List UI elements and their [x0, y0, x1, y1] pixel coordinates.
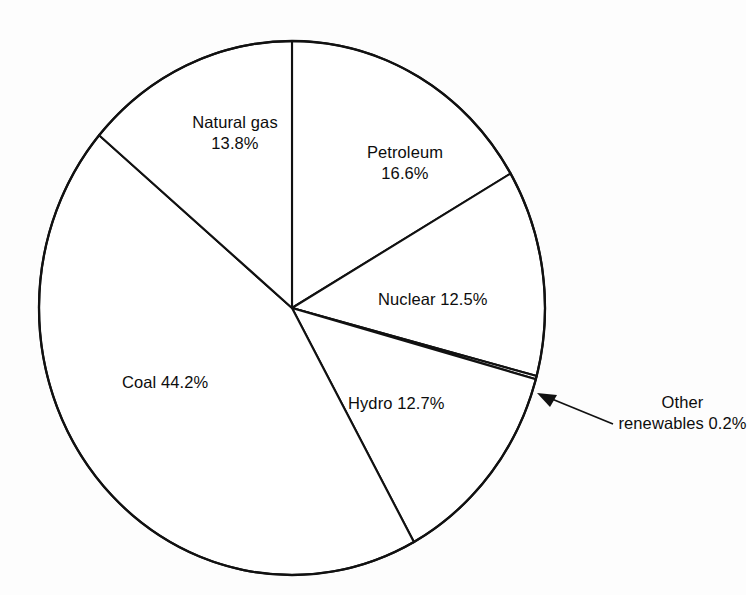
slice-label-nuclear: Nuclear 12.5%: [378, 289, 548, 310]
slice-label-natural-gas: Natural gas 13.8%: [160, 112, 310, 155]
callout-arrow-head: [537, 393, 557, 407]
slice-label-hydro: Hydro 12.7%: [348, 393, 523, 414]
other-renewables-callout: [537, 393, 613, 424]
callout-leader-line: [547, 397, 613, 424]
slice-label-other-renewables: Other renewables 0.2%: [615, 392, 750, 435]
slice-label-petroleum: Petroleum 16.6%: [330, 142, 480, 185]
slice-label-coal: Coal 44.2%: [122, 372, 292, 393]
